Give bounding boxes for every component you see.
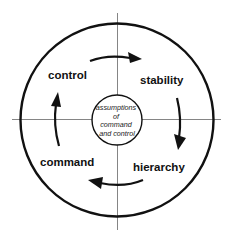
label-command: command bbox=[40, 156, 94, 168]
label-stability: stability bbox=[140, 74, 184, 86]
label-control: control bbox=[48, 69, 87, 81]
arrowhead-icon bbox=[174, 134, 186, 150]
label-hierarchy: hierarchy bbox=[133, 161, 185, 173]
arrow-control-to-stability bbox=[90, 52, 142, 63]
arrow-hierarchy-to-command bbox=[88, 177, 143, 189]
center-text-line-4: and control bbox=[99, 129, 135, 138]
arrowhead-icon bbox=[88, 177, 103, 189]
command-control-cycle-diagram: assumptions of command and control contr… bbox=[0, 0, 229, 237]
arrowhead-icon bbox=[128, 52, 142, 63]
center-text: assumptions of command and control bbox=[96, 103, 138, 138]
arrowhead-icon bbox=[51, 92, 61, 107]
arrow-stability-to-hierarchy bbox=[174, 98, 186, 150]
arrow-command-to-control bbox=[51, 92, 61, 146]
